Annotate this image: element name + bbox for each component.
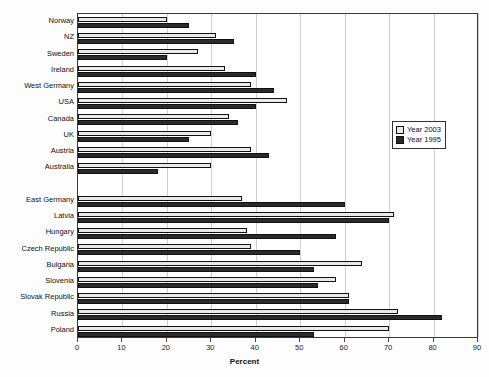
gridline-70 xyxy=(389,14,390,337)
legend-item-year-1995: Year 1995 xyxy=(396,135,441,145)
category-label-slovenia: Slovenia xyxy=(45,276,74,285)
category-label-czech-republic: Czech Republic xyxy=(21,244,74,253)
gridline-80 xyxy=(434,14,435,337)
bar-nz-year-1995 xyxy=(78,39,234,44)
category-label-poland: Poland xyxy=(51,325,74,334)
x-tick-label-60: 60 xyxy=(339,343,347,352)
bar-ireland-year-1995 xyxy=(78,72,256,77)
gridline-50 xyxy=(300,14,301,337)
x-tick-0 xyxy=(77,338,78,342)
bar-poland-year-1995 xyxy=(78,332,314,337)
bar-hungary-year-1995 xyxy=(78,234,336,239)
bar-russia-year-2003 xyxy=(78,309,398,314)
legend-label-year-2003: Year 2003 xyxy=(407,125,441,135)
x-tick-label-80: 80 xyxy=(428,343,436,352)
category-label-slovak-republic: Slovak Republic xyxy=(20,292,74,301)
x-tick-90 xyxy=(477,338,478,342)
bar-austria-year-2003 xyxy=(78,147,251,152)
bar-canada-year-2003 xyxy=(78,114,229,119)
x-tick-60 xyxy=(344,338,345,342)
x-tick-50 xyxy=(299,338,300,342)
bar-bulgaria-year-2003 xyxy=(78,261,362,266)
bar-slovenia-year-2003 xyxy=(78,277,336,282)
bar-usa-year-2003 xyxy=(78,98,287,103)
gridline-90 xyxy=(478,14,479,337)
bar-russia-year-1995 xyxy=(78,315,442,320)
x-axis-label: Percent xyxy=(0,357,489,366)
bar-west-germany-year-2003 xyxy=(78,82,251,87)
x-tick-label-0: 0 xyxy=(75,343,79,352)
bar-austria-year-1995 xyxy=(78,153,269,158)
x-tick-label-70: 70 xyxy=(384,343,392,352)
bar-usa-year-1995 xyxy=(78,104,256,109)
x-tick-label-90: 90 xyxy=(473,343,481,352)
bar-australia-year-1995 xyxy=(78,169,158,174)
bar-canada-year-1995 xyxy=(78,120,238,125)
bar-slovak-republic-year-1995 xyxy=(78,299,349,304)
category-label-latvia: Latvia xyxy=(54,211,74,220)
category-label-usa: USA xyxy=(59,97,74,106)
bar-sweden-year-1995 xyxy=(78,55,167,60)
legend-item-year-2003: Year 2003 xyxy=(396,125,441,135)
bar-east-germany-year-1995 xyxy=(78,202,345,207)
bar-uk-year-1995 xyxy=(78,137,189,142)
bar-east-germany-year-2003 xyxy=(78,196,242,201)
category-label-bulgaria: Bulgaria xyxy=(46,260,74,269)
bar-ireland-year-2003 xyxy=(78,66,225,71)
bar-west-germany-year-1995 xyxy=(78,88,274,93)
x-tick-label-30: 30 xyxy=(206,343,214,352)
x-tick-20 xyxy=(166,338,167,342)
category-label-austria: Austria xyxy=(51,146,74,155)
x-tick-label-20: 20 xyxy=(162,343,170,352)
chart-legend: Year 2003 Year 1995 xyxy=(392,121,446,149)
bar-nz-year-2003 xyxy=(78,33,216,38)
category-label-west-germany: West Germany xyxy=(24,81,74,90)
x-tick-30 xyxy=(210,338,211,342)
x-tick-label-10: 10 xyxy=(117,343,125,352)
bar-hungary-year-2003 xyxy=(78,228,247,233)
bar-czech-republic-year-2003 xyxy=(78,244,251,249)
category-label-east-germany: East Germany xyxy=(26,195,74,204)
category-label-russia: Russia xyxy=(51,309,74,318)
category-label-sweden: Sweden xyxy=(47,49,74,58)
gridline-40 xyxy=(256,14,257,337)
bar-poland-year-2003 xyxy=(78,326,389,331)
gridline-20 xyxy=(167,14,168,337)
bar-bulgaria-year-1995 xyxy=(78,267,314,272)
bar-norway-year-1995 xyxy=(78,23,189,28)
gridline-60 xyxy=(345,14,346,337)
bar-norway-year-2003 xyxy=(78,17,167,22)
bar-slovenia-year-1995 xyxy=(78,283,318,288)
x-tick-80 xyxy=(433,338,434,342)
category-label-nz: NZ xyxy=(64,32,74,41)
category-label-hungary: Hungary xyxy=(46,227,74,236)
category-label-canada: Canada xyxy=(48,114,74,123)
bar-australia-year-2003 xyxy=(78,163,211,168)
legend-swatch-year-1995 xyxy=(396,136,404,144)
bar-czech-republic-year-1995 xyxy=(78,250,300,255)
x-tick-10 xyxy=(121,338,122,342)
bar-sweden-year-2003 xyxy=(78,49,198,54)
category-label-uk: UK xyxy=(64,130,74,139)
category-label-norway: Norway xyxy=(49,16,74,25)
category-label-australia: Australia xyxy=(45,162,74,171)
bar-latvia-year-1995 xyxy=(78,218,389,223)
x-tick-70 xyxy=(388,338,389,342)
category-label-ireland: Ireland xyxy=(51,65,74,74)
legend-swatch-year-2003 xyxy=(396,126,404,134)
x-tick-label-40: 40 xyxy=(251,343,259,352)
gridline-10 xyxy=(122,14,123,337)
bar-chart: 0102030405060708090 NorwayNZSwedenIrelan… xyxy=(0,0,489,377)
x-tick-label-50: 50 xyxy=(295,343,303,352)
bar-latvia-year-2003 xyxy=(78,212,394,217)
bar-slovak-republic-year-2003 xyxy=(78,293,349,298)
plot-area xyxy=(77,13,478,338)
legend-label-year-1995: Year 1995 xyxy=(407,135,441,145)
bar-uk-year-2003 xyxy=(78,131,211,136)
gridline-30 xyxy=(211,14,212,337)
x-tick-40 xyxy=(255,338,256,342)
